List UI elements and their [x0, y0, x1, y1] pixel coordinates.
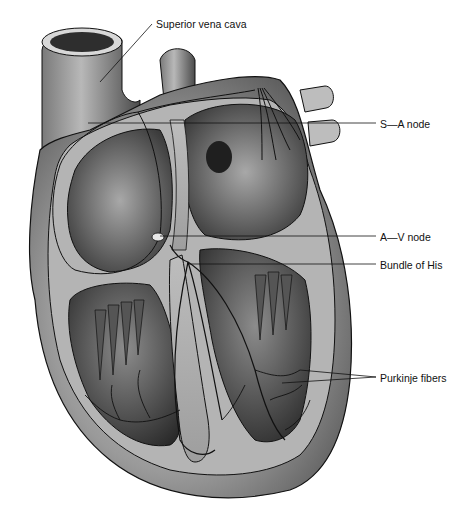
heart-illustration — [0, 0, 462, 515]
av-node-shape — [152, 233, 164, 241]
label-av-node: A—V node — [380, 231, 431, 243]
label-bundle-of-his: Bundle of His — [380, 259, 442, 271]
label-purkinje-fibers: Purkinje fibers — [380, 372, 447, 384]
label-sa-node: S—A node — [380, 118, 430, 130]
label-superior-vena-cava: Superior vena cava — [156, 18, 246, 30]
